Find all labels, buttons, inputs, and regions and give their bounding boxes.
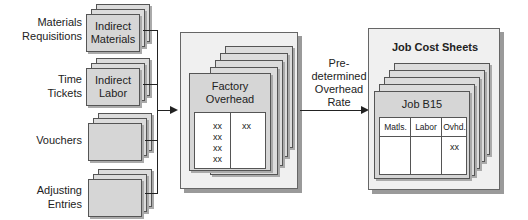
source-label-vouchers: Vouchers bbox=[2, 133, 82, 147]
factory-overhead-panel: Factory Overhead xx xx xx xx xx bbox=[180, 32, 298, 189]
factory-overhead-account: Factory Overhead xx xx xx xx xx bbox=[189, 73, 271, 171]
doc-title: Materials bbox=[87, 33, 139, 46]
label-line: Pre- bbox=[303, 57, 375, 70]
doc-title: Indirect bbox=[87, 74, 139, 87]
job-cost-sheet-b15: Job B15 Matls. Labor Ovhd. xx bbox=[374, 91, 470, 179]
job-cost-sheets-panel: Job Cost Sheets Job B15 Matls. Labor Ovh… bbox=[368, 28, 500, 190]
debit-entry: xx bbox=[213, 132, 222, 143]
account-title: Factory bbox=[190, 80, 270, 93]
arrow-head-icon bbox=[170, 106, 178, 114]
overhead-value: xx bbox=[450, 142, 459, 153]
debit-entry: xx bbox=[213, 121, 222, 132]
label-line: Overhead bbox=[303, 83, 375, 96]
job-title: Job B15 bbox=[375, 98, 469, 110]
account-title: Overhead bbox=[190, 93, 270, 106]
debit-entry: xx bbox=[213, 154, 222, 165]
label-line: Materials bbox=[2, 15, 82, 29]
label-line: Adjusting bbox=[2, 183, 82, 197]
credit-entry: xx bbox=[242, 121, 251, 132]
source-label-time-tickets: Time Tickets bbox=[2, 72, 82, 100]
label-line: determined bbox=[303, 70, 375, 83]
debit-entry: xx bbox=[213, 143, 222, 154]
t-account: xx xx xx xx xx bbox=[194, 112, 266, 169]
credit-column: xx bbox=[242, 121, 251, 132]
panel-title: Job Cost Sheets bbox=[369, 41, 501, 53]
doc-title: Indirect bbox=[87, 20, 139, 33]
label-line: Tickets bbox=[2, 86, 82, 100]
debit-column: xx xx xx xx bbox=[213, 121, 222, 165]
source-label-materials-requisitions: Materials Requisitions bbox=[2, 15, 82, 43]
label-line: Entries bbox=[2, 197, 82, 211]
arrow-label: Pre- determined Overhead Rate bbox=[303, 57, 375, 109]
label-line: Time bbox=[2, 72, 82, 86]
source-label-adjusting-entries: Adjusting Entries bbox=[2, 183, 82, 211]
cost-table: Matls. Labor Ovhd. xx bbox=[379, 117, 467, 175]
label-line: Requisitions bbox=[2, 29, 82, 43]
column-header-overhead: Ovhd. bbox=[442, 122, 467, 132]
connector-line bbox=[300, 110, 362, 111]
column-header-materials: Matls. bbox=[381, 122, 410, 132]
column-header-labor: Labor bbox=[411, 122, 441, 132]
doc-title: Labor bbox=[87, 87, 139, 100]
label-line: Vouchers bbox=[2, 133, 82, 147]
